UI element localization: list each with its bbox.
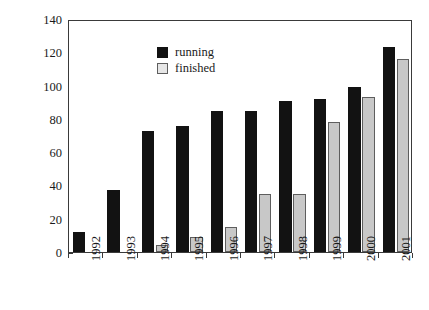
bar-running-1995 [176,126,189,252]
legend-swatch-running-icon [157,47,168,58]
x-axis-tick-label: 1998 [297,236,310,261]
bar-running-2000 [348,87,361,252]
chart-legend: running finished [157,45,215,77]
x-axis-tick-label: 1997 [262,236,275,261]
bar-finished-2000 [362,97,375,252]
bar-running-1994 [142,131,155,252]
bar-running-1998 [279,101,292,252]
plot-area: running finished [68,20,412,253]
legend-swatch-finished-icon [157,63,168,74]
y-axis-tick-label: 140 [22,14,62,27]
legend-item-finished: finished [157,61,215,76]
x-axis-tick-label: 1995 [193,236,206,261]
bar-running-2001 [383,47,396,252]
y-axis-tick-label: 120 [22,47,62,60]
x-axis-tick-label: 1994 [159,236,172,261]
x-axis-tick-label: 1996 [228,236,241,261]
bar-running-1997 [245,111,258,252]
x-axis-tick-label: 1999 [331,236,344,261]
y-axis-tick-label: 0 [22,247,62,260]
x-axis-tick-label: 2001 [400,236,413,261]
bar-finished-1999 [328,122,341,252]
x-axis-tick-label: 2000 [365,236,378,261]
legend-label-finished: finished [175,62,215,75]
bar-running-1992 [73,232,86,252]
y-axis-tick-label: 20 [22,213,62,226]
bar-chart-figure: Number of actions 020406080100120140 run… [0,0,429,310]
x-axis-tick-label: 1992 [90,236,103,261]
bar-finished-2001 [397,59,410,252]
bar-running-1996 [211,111,224,252]
y-axis-tick-label: 40 [22,180,62,193]
y-axis-tick-label: 60 [22,147,62,160]
bar-running-1993 [107,190,120,252]
bar-running-1999 [314,99,327,252]
y-axis-tick-label: 100 [22,80,62,93]
y-axis-tick-label: 80 [22,114,62,127]
legend-item-running: running [157,45,215,60]
y-axis-tick-labels: 020406080100120140 [18,20,62,253]
x-axis-tick-label: 1993 [125,236,138,261]
legend-label-running: running [175,46,214,59]
x-axis-tick-mark [68,253,69,258]
x-axis-tick-labels: 1992199319941995199619971998199920002001 [68,259,412,309]
